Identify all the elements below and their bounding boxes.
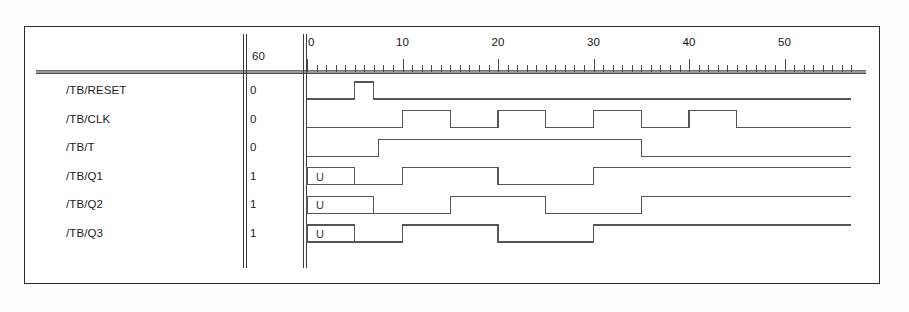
waveform-unknown-label: U <box>316 171 324 183</box>
waveform-unknown-box <box>307 225 355 242</box>
ruler-minor-tick <box>708 65 709 72</box>
ruler-major-tick <box>307 59 308 72</box>
ruler-minor-tick <box>842 65 843 72</box>
ruler-minor-tick <box>355 65 356 72</box>
waveform-path <box>307 82 851 99</box>
ruler-minor-tick <box>737 65 738 72</box>
ruler-minor-tick <box>412 65 413 72</box>
ruler-major-tick <box>594 59 595 72</box>
waveform-path <box>307 139 851 156</box>
ruler-tick-label: 50 <box>778 36 791 48</box>
ruler-minor-tick <box>431 65 432 72</box>
ruler-minor-tick <box>632 65 633 72</box>
ruler-minor-tick <box>383 65 384 72</box>
ruler-minor-tick <box>832 65 833 72</box>
waveform-trace[interactable]: U <box>307 196 851 213</box>
waveform-trace[interactable]: U <box>307 225 851 242</box>
ruler-major-tick <box>403 59 404 72</box>
ruler-minor-tick <box>374 65 375 72</box>
ruler-minor-tick <box>794 65 795 72</box>
ruler-tick-label: 30 <box>587 36 600 48</box>
waveform-path <box>374 196 852 213</box>
signal-value-label: 0 <box>250 84 256 96</box>
ruler-minor-tick <box>823 65 824 72</box>
ruler-minor-tick <box>546 65 547 72</box>
ruler-minor-tick <box>536 65 537 72</box>
ruler-minor-tick <box>336 65 337 72</box>
signal-name-label[interactable]: /TB/T <box>66 141 95 153</box>
ruler-major-tick <box>785 59 786 72</box>
waveform-trace[interactable] <box>307 139 851 156</box>
ruler-minor-tick <box>746 65 747 72</box>
ruler-minor-tick <box>469 65 470 72</box>
ruler-minor-tick <box>345 65 346 72</box>
waveform-trace[interactable]: U <box>307 168 851 185</box>
ruler-minor-tick <box>489 65 490 72</box>
ruler-minor-tick <box>565 65 566 72</box>
ruler-minor-tick <box>422 65 423 72</box>
ruler-major-tick <box>498 59 499 72</box>
signal-name-label[interactable]: /TB/CLK <box>66 113 110 125</box>
ruler-minor-tick <box>765 65 766 72</box>
ruler-minor-tick <box>613 65 614 72</box>
waveform-svg: UUU <box>303 74 859 268</box>
waveform-unknown-label: U <box>316 228 324 240</box>
waveform-path <box>355 225 852 242</box>
waveform-window: 60 01020304050 /TB/RESET0/TB/CLK0/TB/T0/… <box>0 0 909 312</box>
ruler-minor-tick <box>326 65 327 72</box>
ruler-minor-tick <box>680 65 681 72</box>
ruler-minor-tick <box>517 65 518 72</box>
ruler-minor-tick <box>317 65 318 72</box>
ruler-minor-tick <box>756 65 757 72</box>
ruler-minor-tick <box>450 65 451 72</box>
ruler-minor-tick <box>851 65 852 72</box>
waveform-unknown-label: U <box>316 199 324 211</box>
waveform-canvas[interactable]: UUU <box>303 74 859 268</box>
ruler-minor-tick <box>804 65 805 72</box>
signal-name-label[interactable]: /TB/RESET <box>66 84 126 96</box>
waveform-path <box>307 111 851 128</box>
ruler-minor-tick <box>727 65 728 72</box>
ruler-minor-tick <box>527 65 528 72</box>
ruler-minor-tick <box>584 65 585 72</box>
ruler-minor-tick <box>393 65 394 72</box>
ruler-tick-label: 20 <box>492 36 505 48</box>
cursor-time-label: 60 <box>252 50 265 62</box>
signal-value-label: 1 <box>250 198 256 210</box>
signal-name-label[interactable]: /TB/Q3 <box>66 227 103 239</box>
ruler-major-tick <box>689 59 690 72</box>
signal-name-label[interactable]: /TB/Q1 <box>66 170 103 182</box>
signal-value-label: 1 <box>250 170 256 182</box>
ruler-minor-tick <box>555 65 556 72</box>
waveform-unknown-box <box>307 168 355 185</box>
time-ruler[interactable]: 01020304050 <box>303 36 859 72</box>
ruler-minor-tick <box>441 65 442 72</box>
ruler-minor-tick <box>574 65 575 72</box>
waveform-trace[interactable] <box>307 82 851 99</box>
ruler-minor-tick <box>651 65 652 72</box>
ruler-minor-tick <box>641 65 642 72</box>
ruler-tick-label: 10 <box>396 36 409 48</box>
ruler-minor-tick <box>699 65 700 72</box>
signal-value-label: 1 <box>250 227 256 239</box>
signal-value-label: 0 <box>250 113 256 125</box>
ruler-tick-label: 40 <box>683 36 696 48</box>
ruler-minor-tick <box>603 65 604 72</box>
ruler-minor-tick <box>670 65 671 72</box>
ruler-minor-tick <box>718 65 719 72</box>
ruler-minor-tick <box>622 65 623 72</box>
ruler-tick-label: 0 <box>308 36 314 48</box>
ruler-minor-tick <box>364 65 365 72</box>
ruler-minor-tick <box>460 65 461 72</box>
signal-value-label: 0 <box>250 141 256 153</box>
ruler-minor-tick <box>508 65 509 72</box>
waveform-trace[interactable] <box>307 111 851 128</box>
signal-name-label[interactable]: /TB/Q2 <box>66 198 103 210</box>
ruler-minor-tick <box>775 65 776 72</box>
ruler-minor-tick <box>660 65 661 72</box>
ruler-minor-tick <box>813 65 814 72</box>
waveform-path <box>355 168 852 185</box>
ruler-minor-tick <box>479 65 480 72</box>
